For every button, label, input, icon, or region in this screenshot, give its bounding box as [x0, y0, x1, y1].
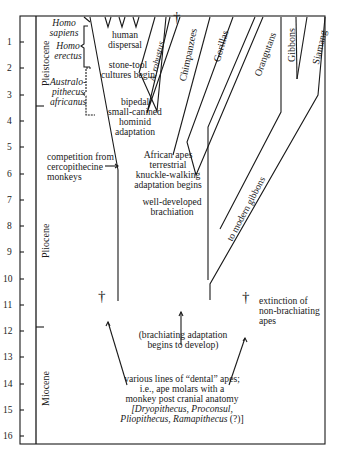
tick-label: 2: [7, 63, 12, 73]
tick-label: 13: [3, 352, 13, 362]
left-extinction-cross: †: [98, 291, 106, 301]
tick-label: 1: [7, 37, 12, 47]
axis-ticks: [20, 42, 24, 436]
gibbons-label: Gibbons: [286, 28, 297, 62]
brachiating-begins-note: (brachiating adaptationbegins to develop…: [128, 330, 238, 350]
tick-label: 16: [3, 431, 13, 441]
tick-label: 12: [3, 326, 13, 336]
homo-sapiens-label: Homosapiens: [47, 18, 81, 38]
tick-label: 8: [7, 221, 12, 231]
bipedal-note: bipedalsmall-caninedhominidadaptation: [100, 97, 170, 137]
homo-erectus-label: Homoerectus: [53, 41, 83, 61]
tick-label: 9: [7, 247, 12, 257]
dispersal-v-2: [119, 17, 125, 27]
dispersal-v-3: [133, 17, 139, 27]
tick-label: 4: [7, 116, 12, 126]
right-extinction-cross: †: [242, 292, 250, 302]
robustus-extinction-cross: †: [173, 12, 181, 22]
extinction-note: extinction ofnon-brachiatingapes: [259, 296, 320, 326]
tick-label: 7: [7, 195, 12, 205]
homo-sapiens-pointer: [84, 17, 90, 22]
dental-apes-note: various lines of “dental” apes; i.e., ap…: [112, 374, 252, 424]
siamang-lineage-left: [297, 17, 307, 79]
dispersal-v-1: [105, 17, 111, 27]
tick-label: 3: [7, 90, 12, 100]
stone-tool-note: stone-toolcultures begin: [97, 60, 159, 80]
tick-label: 6: [7, 169, 12, 179]
human-dispersal-note: humandispersal: [100, 30, 150, 50]
tick-label: 14: [3, 379, 13, 389]
african-apes-note: African apesterrestrialknuckle-walkingad…: [132, 150, 204, 190]
competition-note: competition fromcercopithecinemonkeys: [47, 152, 114, 182]
brachiation-note: well-developedbrachiation: [140, 197, 204, 217]
epoch-pliocene: Pliocene: [40, 224, 51, 258]
tick-label: 10: [3, 274, 13, 284]
tick-label: 11: [3, 300, 12, 310]
tick-label: 5: [7, 142, 12, 152]
tick-label: 15: [3, 405, 13, 415]
australopithecus-label: Australo-pithecusafricanus: [50, 77, 86, 107]
epoch-miocene: Miocene: [40, 371, 51, 406]
